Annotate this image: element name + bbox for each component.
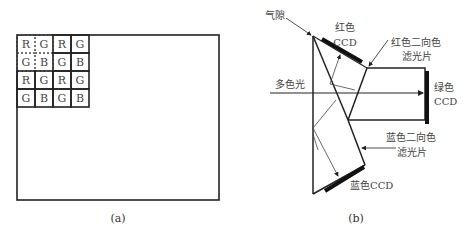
bayer-cell-label: G bbox=[22, 92, 31, 105]
label-green-ccd-1: 绿色 bbox=[434, 81, 454, 93]
bayer-cell-label: G bbox=[76, 38, 85, 51]
caption-a: (a) bbox=[110, 212, 125, 225]
bayer-grid: RGRGGBGBRGRGGBGB bbox=[17, 35, 89, 107]
bayer-cell-label: R bbox=[58, 38, 67, 51]
bayer-cell-label: B bbox=[76, 92, 84, 105]
label-red-filter-1: 红色二向色 bbox=[391, 36, 441, 48]
figure: RGRGGBGBRGRGGBGB (a) 气隙 红色 CCD 红色二向色 bbox=[0, 0, 471, 238]
panel-a: RGRGGBGBRGRGGBGB (a) bbox=[17, 35, 219, 225]
label-air-gap: 气隙 bbox=[265, 9, 285, 21]
ray-to-red-ccd bbox=[330, 55, 340, 84]
panel-b: 气隙 红色 CCD 红色二向色 滤光片 多色光 绿色 CCD 蓝色二向色 滤光片… bbox=[265, 9, 457, 225]
blue-dichroic-filter bbox=[348, 120, 365, 165]
label-blue-filter-1: 蓝色二向色 bbox=[386, 131, 436, 143]
ray-1 bbox=[313, 100, 336, 128]
label-green-ccd-2: CCD bbox=[434, 96, 457, 107]
bayer-cell-label: R bbox=[58, 74, 67, 87]
bayer-cell-label: G bbox=[76, 74, 85, 87]
bayer-cell-label: G bbox=[58, 56, 67, 69]
label-blue-filter-2: 滤光片 bbox=[397, 146, 427, 158]
bayer-cell-label: R bbox=[22, 38, 31, 51]
bayer-cell-label: G bbox=[40, 38, 49, 51]
label-polychromatic-light: 多色光 bbox=[275, 78, 305, 90]
red-filter-leader bbox=[369, 40, 388, 66]
ray-blue bbox=[313, 128, 338, 176]
label-red-filter-2: 滤光片 bbox=[402, 50, 432, 62]
bayer-cell-label: B bbox=[40, 92, 48, 105]
bayer-cell-label: G bbox=[58, 92, 67, 105]
bayer-cell-label: G bbox=[40, 74, 49, 87]
bayer-cell-label: R bbox=[22, 74, 31, 87]
bayer-cell-label: B bbox=[40, 56, 48, 69]
caption-b: (b) bbox=[348, 212, 364, 225]
red-dichroic-filter bbox=[348, 68, 367, 120]
air-gap-face bbox=[313, 36, 348, 120]
label-blue-ccd: 蓝色CCD bbox=[350, 179, 393, 191]
air-gap-leader bbox=[286, 18, 311, 35]
bayer-cell-label: G bbox=[22, 56, 31, 69]
label-red-ccd-2: CCD bbox=[333, 37, 356, 48]
label-red-ccd-1: 红色 bbox=[335, 21, 355, 33]
green-prism bbox=[348, 68, 425, 120]
bayer-cell-label: B bbox=[76, 56, 84, 69]
